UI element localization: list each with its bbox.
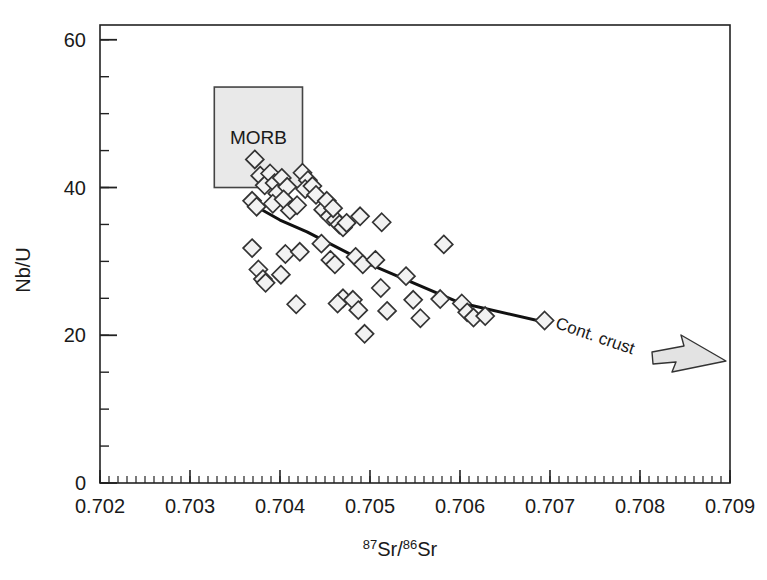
morb-field-label: MORB bbox=[230, 127, 287, 148]
x-tick-label: 0.704 bbox=[255, 495, 305, 517]
x-tick-label: 0.709 bbox=[705, 495, 755, 517]
figure-container: 0.7020.7030.7040.7050.7060.7070.7080.709… bbox=[0, 0, 767, 580]
y-tick-label: 60 bbox=[64, 29, 86, 51]
x-tick-label: 0.703 bbox=[165, 495, 215, 517]
y-tick-label: 40 bbox=[64, 177, 86, 199]
y-tick-label: 0 bbox=[75, 472, 86, 494]
y-tick-label: 20 bbox=[64, 324, 86, 346]
x-tick-label: 0.702 bbox=[75, 495, 125, 517]
x-tick-label: 0.705 bbox=[345, 495, 395, 517]
x-tick-label: 0.708 bbox=[615, 495, 665, 517]
y-axis-title: Nb/U bbox=[12, 247, 34, 293]
x-tick-label: 0.707 bbox=[525, 495, 575, 517]
scatter-plot: 0.7020.7030.7040.7050.7060.7070.7080.709… bbox=[0, 0, 767, 580]
x-tick-label: 0.706 bbox=[435, 495, 485, 517]
